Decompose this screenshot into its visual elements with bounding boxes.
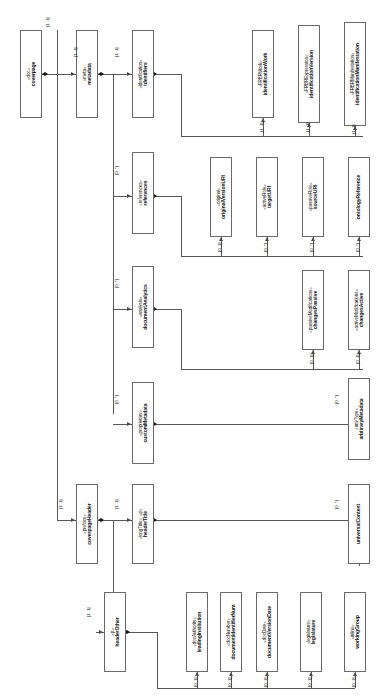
multiplicity-m-custommeta: [0..*] <box>114 395 119 404</box>
multiplicity-m-docdate: [0..1] <box>263 677 268 687</box>
multiplicity-m-changespassive: [0..1] <box>309 354 314 364</box>
multiplicity-m-arbitrary: [0..*] <box>334 395 339 404</box>
class-box-arbitraryMetadata[interactable]: «anyType»arbitraryMetadata <box>348 378 370 460</box>
bus-references-v <box>181 196 182 256</box>
class-box-targetURI[interactable]: «activeRole»targetURI <box>256 157 278 237</box>
arrow-head <box>71 518 75 522</box>
multiplicity-m-references: [0..*] <box>114 166 119 175</box>
multiplicity-m-originaluri: [0..1] <box>217 242 222 252</box>
class-box-documentVersionDate[interactable]: «docDate»documentVersionDate <box>256 592 278 672</box>
class-box-ontologyReference[interactable]: ontologyReference <box>348 157 370 237</box>
class-box-text: «analysis»documentAnalytics <box>138 284 149 329</box>
class-name: coverpage <box>31 62 37 87</box>
edge-custommeta-bus <box>154 424 359 425</box>
class-box-text: «FRBRWork»identificationWork <box>258 53 269 96</box>
multiplicity-m-idversion: [1..1] <box>305 122 310 132</box>
composition-diamond <box>42 72 48 76</box>
arrow-head <box>127 194 131 198</box>
multiplicity-m-leading: [0..1] <box>193 677 198 687</box>
class-box-leadingInstitution[interactable]: «docAuthority»leadingInstitution <box>186 592 208 672</box>
class-box-identificationVersion[interactable]: «FRBRExpression»identificationVersion <box>298 25 320 123</box>
class-box-metadata[interactable]: «meta»metadata <box>76 30 98 118</box>
class-box-text: «FRBRManifestation»identificationManifes… <box>350 43 361 105</box>
spine-left <box>57 30 58 520</box>
multiplicity-m-targeturi: [0..*] <box>263 243 268 252</box>
class-box-coverpageHeader[interactable]: «preface»coverpageHeader <box>76 484 98 564</box>
class-name: arbitraryMetadata <box>359 398 365 439</box>
class-box-text: «legislature»legislature <box>306 620 317 645</box>
edge-identifiers-bus <box>154 74 182 75</box>
multiplicity-m-coverpageheader: [1..1] <box>58 499 63 509</box>
class-box-identificationWork[interactable]: «FRBRWork»identificationWork <box>252 30 274 118</box>
arrow-head <box>127 72 131 76</box>
class-box-identificationManifestation[interactable]: «FRBRManifestation»identificationManifes… <box>344 22 366 126</box>
composition-diamond <box>98 72 104 76</box>
arrow-head <box>311 237 315 241</box>
class-box-legislature[interactable]: «legislature»legislature <box>300 592 322 672</box>
class-box-text: «docNumber»documentIdentifierNum <box>226 604 237 659</box>
arrow-head <box>127 518 131 522</box>
class-box-text: «original»originalVersionURI <box>216 175 227 219</box>
class-box-references[interactable]: «references»references <box>132 152 154 234</box>
class-name: coverpageHeader <box>87 503 93 544</box>
class-box-text: «activeRole»targetURI <box>262 184 273 209</box>
class-box-coverpage[interactable]: «doc»coverpage <box>20 30 42 118</box>
arrow-head <box>127 307 131 311</box>
class-box-documentIdentifierNum[interactable]: «docNumber»documentIdentifierNum <box>220 592 242 672</box>
multiplicity-m-metadata: [1..1] <box>73 47 78 57</box>
class-box-identifiers[interactable]: «identification»identifiers <box>132 30 154 118</box>
class-name: universalContent <box>356 504 362 544</box>
composition-diamond <box>98 518 104 522</box>
arrow-head <box>261 118 265 122</box>
arrow-head <box>99 630 103 634</box>
class-name: ontologyReference <box>356 175 362 219</box>
class-box-universalContent[interactable]: universalContent <box>348 484 370 564</box>
class-name: targetURI <box>267 184 273 209</box>
class-box-text: «references»references <box>138 180 149 206</box>
class-box-headerOther[interactable]: «p»headerOther <box>104 592 126 672</box>
multiplicity-m-analysis: [0..*] <box>114 279 119 288</box>
class-name: workingGroup <box>355 615 361 649</box>
bus-identifiers-v <box>181 74 182 136</box>
class-box-headerTitle[interactable]: «longTitle», «p»headerTitle <box>132 484 154 564</box>
edge-headerother-bus <box>126 632 158 633</box>
uml-diagram-canvas: «doc»coverpage«meta»metadata«identificat… <box>0 0 382 699</box>
edge-references-bus <box>154 196 182 197</box>
arrow-head <box>265 672 269 676</box>
arrow-head <box>357 350 361 354</box>
multiplicity-m-headertitle: [1..1] <box>114 499 119 509</box>
multiplicity-m-coverpage-root: [1..1] <box>45 17 50 27</box>
class-name: changesPassive <box>313 287 319 332</box>
class-name: documentVersionDate <box>267 606 273 658</box>
class-box-text: ontologyReference <box>356 175 362 219</box>
bus-analytics-v <box>181 309 182 369</box>
class-box-text: «anyType»arbitraryMetadata <box>354 398 365 439</box>
class-box-text: «identification»identifiers <box>138 59 149 88</box>
class-box-text: «passiveModifications»changesPassive <box>308 287 319 332</box>
class-box-text: «passiveRole»sourceURI <box>308 183 319 212</box>
class-box-originalVersionURI[interactable]: «original»originalVersionURI <box>210 157 232 237</box>
class-name: sourceURI <box>313 183 319 212</box>
class-box-text: «longTitle», «p»headerTitle <box>138 509 149 540</box>
arrow-head <box>71 72 75 76</box>
class-box-changesActive[interactable]: «activeModifications»changesActive <box>348 270 370 350</box>
arrow-head <box>357 237 361 241</box>
class-box-text: «activeModifications»changesActive <box>354 289 365 331</box>
class-box-documentAnalytics[interactable]: «analysis»documentAnalytics <box>132 266 154 348</box>
class-box-text: «doc»coverpage <box>26 62 37 87</box>
multiplicity-m-workinggroup: [0..1] <box>351 677 356 687</box>
multiplicity-m-docnum: [0..1] <box>227 677 232 687</box>
class-box-sourceURI[interactable]: «passiveRole»sourceURI <box>302 157 324 237</box>
arrow-head <box>309 672 313 676</box>
class-box-customMetadata[interactable]: «proprietary»customMetadata <box>132 382 154 464</box>
class-name: legislature <box>311 620 317 645</box>
spine-metadata <box>113 74 114 414</box>
edge-analytics-bus <box>154 309 182 310</box>
class-name: documentAnalytics <box>143 284 149 329</box>
class-box-workingGroup[interactable]: «inline»workingGroup <box>344 592 366 672</box>
class-box-changesPassive[interactable]: «passiveModifications»changesPassive <box>302 270 324 350</box>
bus-identifiers-h <box>181 136 363 137</box>
class-name: leadingInstitution <box>197 612 203 653</box>
class-name: headerOther <box>115 617 121 646</box>
class-name: changesActive <box>359 289 365 331</box>
